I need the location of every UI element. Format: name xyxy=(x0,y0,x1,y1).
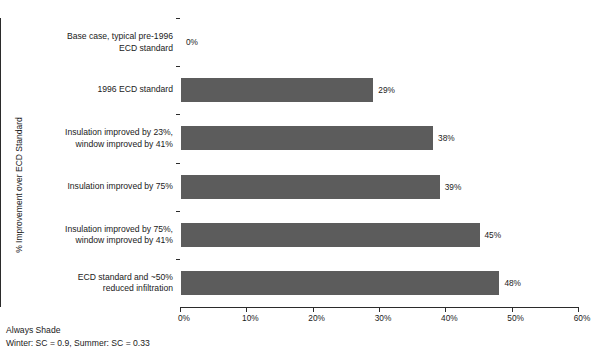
footnote-line-1: Always Shade xyxy=(6,324,150,337)
x-axis-label: 10% xyxy=(242,313,259,323)
category-label: Insulation improved by 75%, window impro… xyxy=(8,223,173,246)
y-axis-line xyxy=(0,18,1,307)
category-label: Insulation improved by 75% xyxy=(8,181,173,193)
x-axis-label: 50% xyxy=(507,313,524,323)
bar-row: Base case, typical pre-1996 ECD standard… xyxy=(180,18,578,66)
category-label: Base case, typical pre-1996 ECD standard xyxy=(8,31,173,54)
x-axis-label: 60% xyxy=(574,313,591,323)
bar-row: ECD standard and ~50% reduced infiltrati… xyxy=(180,259,578,307)
x-axis-tick xyxy=(379,307,380,312)
y-axis-tick xyxy=(176,18,180,19)
x-axis-label: 40% xyxy=(441,313,458,323)
bar-value-label: 38% xyxy=(433,133,455,143)
y-axis-tick xyxy=(176,259,180,260)
category-label-line1: Insulation improved by 23%, xyxy=(65,127,173,137)
category-label-line1: Insulation improved by 75% xyxy=(67,181,173,191)
x-axis-tick xyxy=(445,307,446,312)
bar[interactable] xyxy=(181,271,499,295)
y-axis-tick xyxy=(176,114,180,115)
footnote: Always Shade Winter: SC = 0.9, Summer: S… xyxy=(6,324,150,349)
bar-value-label: 45% xyxy=(480,230,502,240)
plot-area: Base case, typical pre-1996 ECD standard… xyxy=(180,18,578,307)
x-axis-tick xyxy=(313,307,314,312)
category-label-line1: 1996 ECD standard xyxy=(98,84,173,94)
footnote-line-2: Winter: SC = 0.9, Summer: SC = 0.33 xyxy=(6,337,150,350)
category-label-line1: Base case, typical pre-1996 xyxy=(67,31,173,41)
bar[interactable] xyxy=(181,223,480,247)
y-axis-tick xyxy=(176,66,180,67)
x-axis-tick xyxy=(246,307,247,312)
category-label-line2: window improved by 41% xyxy=(76,138,173,148)
x-axis-label: 30% xyxy=(375,313,392,323)
bar-row: Insulation improved by 23%, window impro… xyxy=(180,114,578,162)
x-axis-label: 0% xyxy=(178,313,190,323)
y-axis-tick xyxy=(176,163,180,164)
bar-row: 1996 ECD standard 29% xyxy=(180,66,578,114)
x-axis-tick xyxy=(180,307,181,312)
category-label: 1996 ECD standard xyxy=(8,84,173,96)
bar[interactable] xyxy=(181,175,440,199)
y-axis-tick xyxy=(176,211,180,212)
category-label-line2: reduced infiltration xyxy=(103,283,173,293)
chart-title xyxy=(196,0,526,3)
bar[interactable] xyxy=(181,78,373,102)
bar-row: Insulation improved by 75%, window impro… xyxy=(180,211,578,259)
bar-row: Insulation improved by 75% 39% xyxy=(180,163,578,211)
category-label: Insulation improved by 23%, window impro… xyxy=(8,127,173,150)
x-axis-tick xyxy=(578,307,579,312)
x-axis-label: 20% xyxy=(308,313,325,323)
bar-value-label: 39% xyxy=(440,182,462,192)
bar-value-label: 0% xyxy=(181,37,198,47)
category-label-line2: window improved by 41% xyxy=(76,235,173,245)
category-label-line1: Insulation improved by 75%, xyxy=(65,223,173,233)
bar[interactable] xyxy=(181,126,433,150)
bar-value-label: 48% xyxy=(499,278,521,288)
category-label-line1: ECD standard and ~50% xyxy=(78,271,173,281)
category-label-line2: ECD standard xyxy=(119,42,173,52)
category-label: ECD standard and ~50% reduced infiltrati… xyxy=(8,271,173,294)
x-axis-tick xyxy=(512,307,513,312)
bar-value-label: 29% xyxy=(373,85,395,95)
